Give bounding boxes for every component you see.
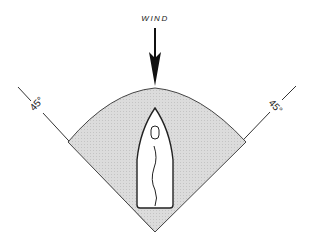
left-angle-label: 45° <box>27 94 45 113</box>
no-go-zone-diagram: WIND 45° 45° <box>0 0 310 243</box>
wind-label: WIND <box>141 14 168 23</box>
wind-arrow-icon <box>149 28 161 86</box>
